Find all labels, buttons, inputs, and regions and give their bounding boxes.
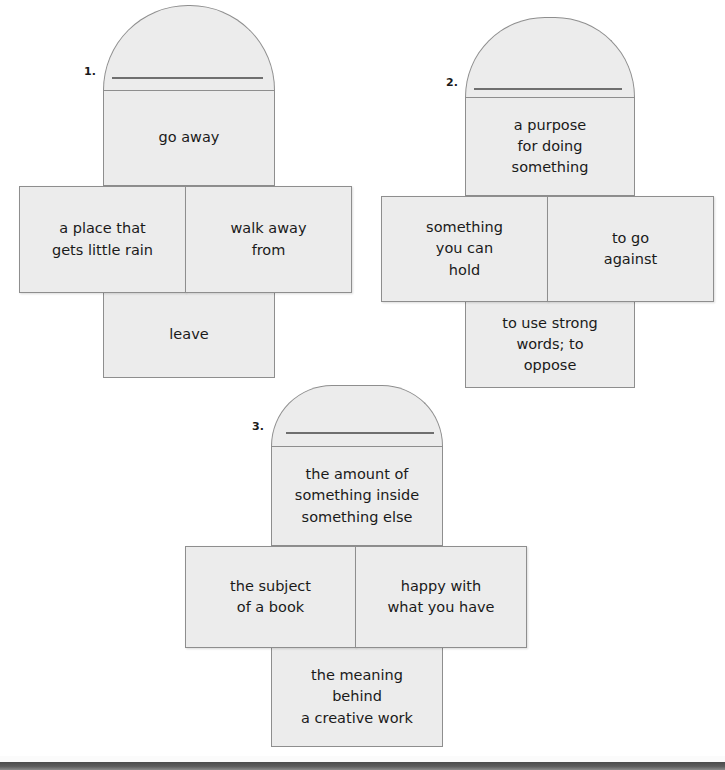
text-line: what you have	[381, 597, 500, 618]
scan-edge-bar	[0, 762, 725, 770]
text-line: the amount of	[289, 464, 425, 485]
foldable-3-left-panel-text: the subject of a book	[218, 576, 323, 618]
text-line: gets little rain	[46, 240, 159, 261]
foldable-3-write-line[interactable]	[286, 432, 434, 434]
text-line: something	[506, 157, 595, 178]
text-line: happy with	[381, 576, 500, 597]
foldable-2-left-panel-text: something you can hold	[414, 217, 515, 280]
text-line: from	[225, 240, 313, 261]
text-line: hold	[420, 260, 509, 281]
foldable-2-arch	[465, 17, 635, 97]
foldable-3-left-panel: the subject of a book	[185, 546, 356, 648]
text-line: leave	[163, 324, 214, 345]
text-line: against	[598, 249, 663, 270]
foldable-3-right-panel: happy with what you have	[355, 546, 527, 648]
text-line: walk away	[225, 218, 313, 239]
foldable-1-top-panel: go away	[103, 90, 275, 186]
foldable-2-write-line[interactable]	[474, 88, 622, 90]
foldable-1-bottom-panel-text: leave	[157, 324, 220, 345]
text-line: something else	[289, 507, 425, 528]
text-line: a purpose	[506, 115, 595, 136]
foldable-1-bottom-panel: leave	[103, 292, 275, 378]
foldable-1-left-panel: a place that gets little rain	[19, 186, 186, 293]
foldable-3-bottom-panel: the meaning behind a creative work	[271, 647, 443, 747]
foldable-2-right-panel: to go against	[547, 196, 714, 302]
foldable-2-left-panel: something you can hold	[381, 196, 548, 302]
foldable-3-arch	[271, 385, 443, 446]
worksheet-page: 1. go away a place that gets little rain…	[0, 0, 725, 770]
foldable-2-bottom-panel-text: to use strong words; to oppose	[490, 313, 610, 376]
foldable-3-bottom-panel-text: the meaning behind a creative work	[289, 665, 425, 728]
text-line: for doing	[506, 136, 595, 157]
text-line: the subject	[224, 576, 317, 597]
foldable-3-right-panel-text: happy with what you have	[375, 576, 506, 618]
text-line: you can	[420, 238, 509, 259]
text-line: something inside	[289, 485, 425, 506]
foldable-2-bottom-panel: to use strong words; to oppose	[465, 301, 635, 388]
foldable-1-left-panel-text: a place that gets little rain	[40, 218, 165, 260]
foldable-3-number: 3.	[252, 420, 264, 433]
foldable-2-top-panel: a purpose for doing something	[465, 97, 635, 196]
foldable-1-right-panel-text: walk away from	[219, 218, 319, 260]
text-line: to use strong	[496, 313, 604, 334]
text-line: words; to	[496, 334, 604, 355]
foldable-3-top-panel-text: the amount of something inside something…	[283, 464, 431, 527]
text-line: a creative work	[295, 708, 419, 729]
foldable-2-right-panel-text: to go against	[592, 228, 669, 270]
foldable-1-top-panel-text: go away	[147, 127, 232, 148]
text-line: a place that	[46, 218, 159, 239]
foldable-2-top-panel-text: a purpose for doing something	[500, 115, 601, 178]
text-line: to go	[598, 228, 663, 249]
text-line: the meaning	[295, 665, 419, 686]
foldable-1-number: 1.	[84, 65, 96, 78]
foldable-1-write-line[interactable]	[112, 77, 263, 79]
text-line: behind	[295, 686, 419, 707]
text-line: go away	[153, 127, 226, 148]
text-line: something	[420, 217, 509, 238]
text-line: of a book	[224, 597, 317, 618]
foldable-3-top-panel: the amount of something inside something…	[271, 446, 443, 546]
foldable-2-number: 2.	[446, 76, 458, 89]
foldable-1-right-panel: walk away from	[185, 186, 352, 293]
text-line: oppose	[496, 355, 604, 376]
